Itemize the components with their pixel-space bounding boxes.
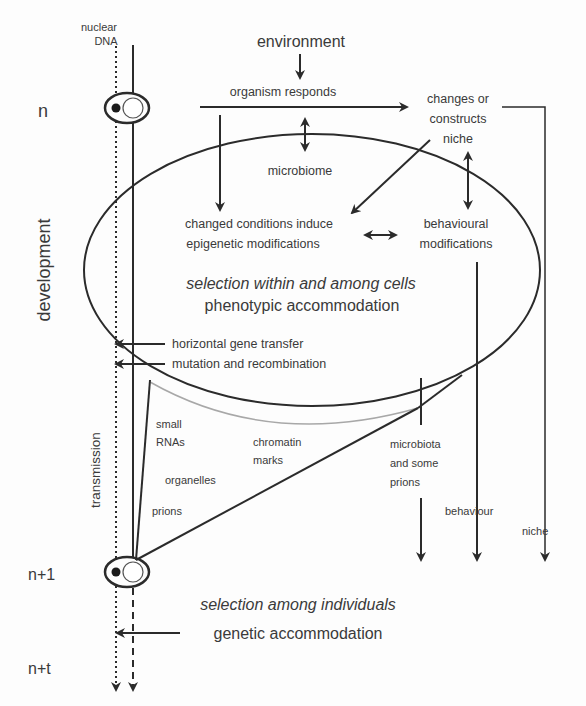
diagram-canvas: nuclear DNA n n+1 n+t development transm… — [0, 0, 586, 706]
nuclear-dna-label-2: DNA — [94, 35, 118, 47]
small-rnas-label-2: RNAs — [156, 436, 185, 448]
generation-n1-label: n+1 — [28, 566, 55, 583]
behavioural-label-2: modifications — [420, 237, 493, 251]
development-label: development — [34, 218, 54, 321]
microbiota-label-3: prions — [390, 476, 420, 488]
niche-label-1: changes or — [427, 92, 489, 106]
nuclear-dna-label-1: nuclear — [81, 21, 117, 33]
niche-label-3: niche — [443, 132, 473, 146]
hgt-label: horizontal gene transfer — [172, 337, 303, 351]
transmission-grey-arc — [150, 382, 418, 424]
niche-label-2: constructs — [430, 112, 487, 126]
selection-individuals-label: selection among individuals — [200, 596, 396, 613]
epigenetic-label-1: changed conditions induce — [185, 217, 333, 231]
microbiota-label-1: microbiota — [390, 438, 442, 450]
organelles-label: organelles — [165, 474, 216, 486]
organism-responds-label: organism responds — [230, 85, 336, 99]
microbiome-label: microbiome — [268, 164, 333, 178]
selection-cells-label: selection within and among cells — [186, 275, 415, 292]
cell-generation-n1-icon — [105, 557, 149, 587]
generation-nt-label: n+t — [28, 660, 51, 677]
chromatin-label-2: marks — [253, 454, 283, 466]
microbiota-label-2: and some — [390, 457, 438, 469]
behaviour-label: behaviour — [445, 505, 494, 517]
chromatin-label-1: chromatin — [253, 436, 301, 448]
prions-label: prions — [152, 505, 182, 517]
transmission-label: transmission — [88, 432, 103, 508]
phenotypic-accommodation-label: phenotypic accommodation — [205, 297, 400, 314]
small-rnas-label-1: small — [156, 418, 182, 430]
genetic-accommodation-label: genetic accommodation — [214, 625, 383, 642]
environment-label: environment — [257, 33, 346, 50]
behavioural-label-1: behavioural — [424, 217, 489, 231]
niche-bottom-label: niche — [522, 525, 548, 537]
epigenetic-label-2: epigenetic modifications — [186, 237, 319, 251]
niche-to-epigenetic-arrow — [352, 140, 430, 213]
mutation-label: mutation and recombination — [172, 357, 326, 371]
generation-n-label: n — [38, 101, 48, 121]
cell-generation-n-icon — [105, 93, 149, 123]
niche-feedback-line — [502, 107, 545, 560]
